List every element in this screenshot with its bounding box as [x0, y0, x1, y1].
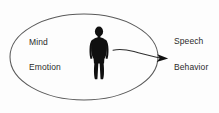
label-speech: Speech [174, 36, 203, 46]
label-mind: Mind [29, 37, 48, 47]
label-behavior: Behavior [174, 62, 208, 72]
label-emotion: Emotion [29, 62, 61, 72]
diagram-canvas: Mind Emotion Speech Behavior [0, 0, 219, 113]
diagram-graphics [0, 0, 219, 113]
